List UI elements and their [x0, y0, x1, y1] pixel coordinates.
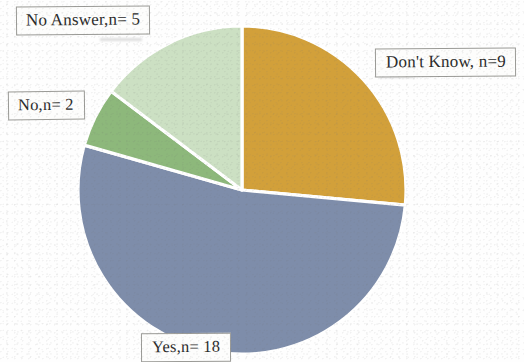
pie-chart-figure: No Answer,n= 5 No,n= 2 Don't Know, n=9 Y… — [0, 0, 524, 362]
pie-label-yes: Yes,n= 18 — [141, 333, 231, 362]
pie-label-yes-text: Yes,n= 18 — [152, 337, 220, 357]
pie-label-no: No,n= 2 — [8, 91, 85, 121]
pie-label-no-answer: No Answer,n= 5 — [16, 5, 150, 35]
scan-smudge — [100, 38, 142, 41]
pie-label-no-text: No,n= 2 — [18, 95, 74, 116]
pie-label-dont-know: Don't Know, n=9 — [375, 48, 516, 78]
pie-label-no-answer-text: No Answer,n= 5 — [26, 10, 140, 31]
pie-slices — [78, 26, 406, 354]
pie-label-dont-know-text: Don't Know, n=9 — [386, 52, 506, 73]
